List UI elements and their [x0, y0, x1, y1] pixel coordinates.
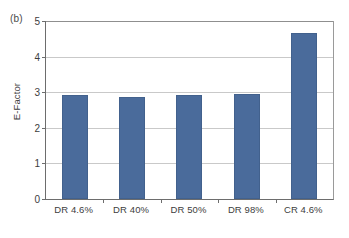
- bar-slot: [161, 21, 218, 199]
- bar-slot: [103, 21, 160, 199]
- plot-area: 012345: [45, 21, 334, 200]
- panel-label: (b): [10, 13, 23, 24]
- x-tick-mark: [161, 199, 162, 203]
- bar-slot: [276, 21, 333, 199]
- y-tick-label-1: 1: [34, 158, 40, 169]
- y-tick-label-4: 4: [34, 51, 40, 62]
- y-tick-label-2: 2: [34, 122, 40, 133]
- y-tick-label-3: 3: [34, 87, 40, 98]
- bar-slot: [46, 21, 103, 199]
- y-tick-label-0: 0: [34, 194, 40, 205]
- bar[interactable]: [119, 97, 145, 199]
- y-axis-title: E-Factor: [11, 72, 22, 132]
- y-tick-mark-0: [42, 199, 46, 200]
- x-tick-label: DR 98%: [228, 204, 264, 215]
- x-tick-label: CR 4.6%: [284, 204, 323, 215]
- bar[interactable]: [62, 95, 88, 199]
- bar[interactable]: [176, 95, 202, 199]
- figure-panel-b: (b) E-Factor 012345 DR 4.6%DR 40%DR 50%D…: [0, 0, 349, 238]
- x-tick-mark: [103, 199, 104, 203]
- y-tick-label-5: 5: [34, 16, 40, 27]
- x-tick-label: DR 50%: [171, 204, 207, 215]
- bar-series: [46, 21, 333, 199]
- bar[interactable]: [234, 94, 260, 199]
- x-tick-label: DR 40%: [113, 204, 149, 215]
- x-tick-label: DR 4.6%: [54, 204, 93, 215]
- x-tick-mark: [218, 199, 219, 203]
- x-tick-mark: [276, 199, 277, 203]
- bar[interactable]: [291, 33, 317, 199]
- bar-slot: [218, 21, 275, 199]
